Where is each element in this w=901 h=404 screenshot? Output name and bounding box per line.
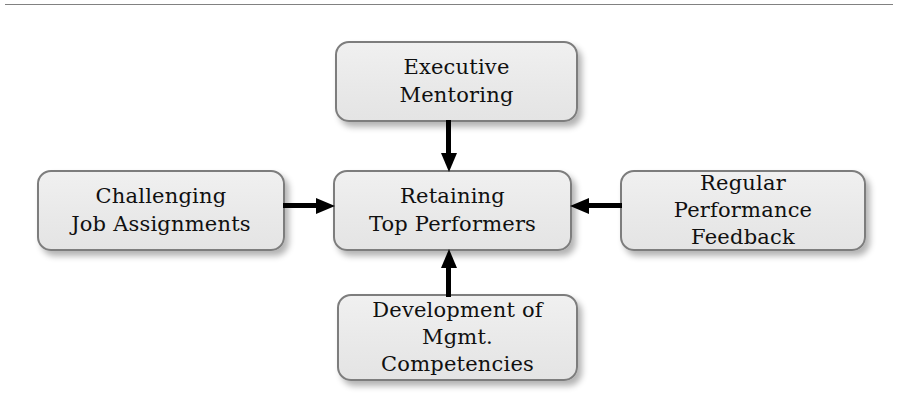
node-challenging-job-assignments-label: Challenging Job Assignments [63, 183, 259, 238]
node-retaining-top-performers-label: Retaining Top Performers [361, 183, 544, 238]
node-retaining-top-performers[interactable]: Retaining Top Performers [333, 170, 572, 251]
node-executive-mentoring[interactable]: Executive Mentoring [335, 41, 578, 122]
node-executive-mentoring-label: Executive Mentoring [391, 54, 521, 109]
node-development-of-mgmt-competencies[interactable]: Development of Mgmt. Competencies [337, 294, 578, 381]
node-regular-performance-feedback[interactable]: Regular Performance Feedback [620, 170, 866, 251]
node-challenging-job-assignments[interactable]: Challenging Job Assignments [37, 170, 285, 251]
diagram-canvas: Executive Mentoring Challenging Job Assi… [0, 0, 901, 404]
node-development-of-mgmt-competencies-label: Development of Mgmt. Competencies [339, 297, 576, 379]
node-regular-performance-feedback-label: Regular Performance Feedback [622, 170, 864, 252]
arrow-down-icon [441, 120, 457, 172]
top-horizontal-rule [5, 4, 893, 5]
arrow-up-icon [441, 249, 457, 297]
arrow-right-icon [283, 198, 335, 214]
arrow-left-icon [570, 198, 622, 214]
